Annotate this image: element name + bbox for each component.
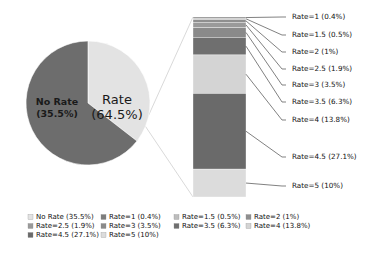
legend-label: Rate=1 (0.4%) <box>109 213 161 221</box>
legend-swatch <box>101 224 106 229</box>
legend-label: Rate=2 (1%) <box>254 213 299 221</box>
callout-label-rate-1-5: Rate=1.5 (0.5%) <box>292 30 352 39</box>
legend-swatch <box>101 233 106 238</box>
bar-segment-rate-1-5 <box>193 18 246 19</box>
legend-label: Rate=1.5 (0.5%) <box>182 213 241 221</box>
pie-label-rate-percent: (64.5%) <box>91 107 142 122</box>
legend-swatch <box>246 215 251 220</box>
legend-label: Rate=3 (3.5%) <box>109 222 161 230</box>
chart-legend: No Rate (35.5%)Rate=1 (0.4%)Rate=1.5 (0.… <box>28 213 311 239</box>
legend-label: Rate=3.5 (6.3%) <box>182 222 241 230</box>
legend-swatch <box>28 215 33 220</box>
legend-swatch <box>28 224 33 229</box>
callout-label-rate-2-5: Rate=2.5 (1.9%) <box>292 64 352 73</box>
legend-swatch <box>174 224 179 229</box>
callout-labels: Rate=1 (0.4%)Rate=1.5 (0.5%)Rate=2 (1%)R… <box>246 12 357 190</box>
leader-line-rate-2-5 <box>246 25 286 69</box>
callout-label-rate-3-5: Rate=3.5 (6.3%) <box>292 97 352 106</box>
legend-swatch <box>101 215 106 220</box>
legend-swatch <box>246 224 251 229</box>
bar-segment-rate-4-5 <box>193 93 246 169</box>
legend-swatch <box>174 215 179 220</box>
callout-label-rate-4: Rate=4 (13.8%) <box>292 115 350 124</box>
pie-of-bar-figure: No Rate (35.5%) Rate (64.5%) Rate=1 (0.4… <box>0 0 366 255</box>
pie-label-rate-name: Rate <box>102 92 132 107</box>
leader-line-rate-4 <box>246 74 286 120</box>
legend-label: Rate=4 (13.8%) <box>254 222 311 230</box>
chart-container: No Rate (35.5%) Rate (64.5%) Rate=1 (0.4… <box>0 0 366 255</box>
stacked-bar <box>193 17 246 197</box>
bar-segment-rate-4 <box>193 55 246 94</box>
bar-segment-rate-5 <box>193 169 246 197</box>
callout-label-rate-3: Rate=3 (3.5%) <box>292 80 345 89</box>
bar-segment-rate-2-5 <box>193 22 246 27</box>
bar-segment-rate-3-5 <box>193 37 246 55</box>
legend-swatch <box>28 233 33 238</box>
leader-line-rate-1 <box>246 17 286 18</box>
legend-label: No Rate (35.5%) <box>36 213 94 221</box>
bar-segment-rate-3 <box>193 28 246 38</box>
pie-label-no-rate-percent: (35.5%) <box>36 108 78 119</box>
bar-segment-rate-2 <box>193 20 246 23</box>
leader-line-rate-2 <box>246 21 286 52</box>
leader-line-rate-3-5 <box>246 46 286 102</box>
callout-label-rate-5: Rate=5 (10%) <box>292 181 343 190</box>
leader-line-rate-5 <box>246 183 286 186</box>
callout-label-rate-2: Rate=2 (1%) <box>292 47 339 56</box>
legend-label: Rate=2.5 (1.9%) <box>36 222 95 230</box>
callout-label-rate-1: Rate=1 (0.4%) <box>292 12 345 21</box>
pie-label-no-rate-name: No Rate <box>36 96 79 107</box>
leader-line-rate-4-5 <box>246 131 286 157</box>
legend-label: Rate=4.5 (27.1%) <box>36 231 99 239</box>
callout-label-rate-4-5: Rate=4.5 (27.1%) <box>292 152 357 161</box>
legend-label: Rate=5 (10%) <box>109 231 159 239</box>
